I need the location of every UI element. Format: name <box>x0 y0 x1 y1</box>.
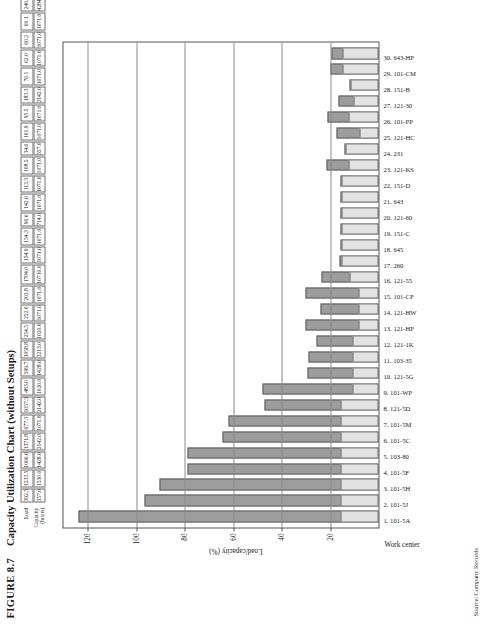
figure-caption: FIGURE 8.7Capacity Utilization Chart (wi… <box>4 349 15 618</box>
table-cell-capacity: 1071.0 <box>33 414 46 431</box>
x-axis-tick-label: 17. 260 <box>383 261 403 268</box>
x-axis-tick-label: 27. 121-30 <box>383 101 412 108</box>
x-axis-tick-label: 23. 121-KS <box>383 165 413 172</box>
x-axis-tick-label: 21. 643 <box>383 197 403 204</box>
x-axis-tick-label: 15. 101-CP <box>383 292 413 299</box>
x-axis-tick-label: 11. 103-35 <box>383 356 411 363</box>
bar <box>344 143 378 154</box>
table-cell-load: 1233.5 <box>20 469 33 486</box>
y-axis-tick-label: 100 <box>132 533 140 544</box>
bar <box>340 239 378 250</box>
bar-lower-segment <box>359 128 377 137</box>
table-cell-capacity: 2142.0 <box>33 396 46 413</box>
bar <box>339 255 378 266</box>
x-axis-tick-label: 26. 101-PP <box>383 117 412 124</box>
bar <box>307 367 378 378</box>
y-axis-tick-label: 40 <box>277 533 285 540</box>
y-axis-tick <box>87 527 88 531</box>
bar-lower-segment <box>341 192 377 201</box>
table-cell-load: 108.5 <box>20 156 33 173</box>
bar <box>340 175 378 186</box>
gridline <box>281 42 282 527</box>
bar <box>262 383 378 394</box>
bar-lower-segment <box>352 384 377 393</box>
x-axis-tick-label: 18. 645 <box>383 245 403 252</box>
table-cell-capacity: 1071.0 <box>33 304 46 321</box>
y-axis-tick <box>136 527 137 531</box>
x-axis-tick-label: 29. 101-CM <box>383 69 415 76</box>
bar <box>308 351 378 362</box>
table-cell-capacity: 1071.0 <box>33 227 46 244</box>
capacity-label-line2: (hours) <box>38 507 44 523</box>
table-cell-load: 113.3 <box>20 175 33 192</box>
x-axis-tick-label: 22. 151-D <box>383 181 410 188</box>
table-cell-load: 1058.8 <box>20 340 33 357</box>
table-cell-capacity: 2142.0 <box>33 86 46 103</box>
y-axis-tick-label: 80 <box>180 533 188 540</box>
table-cell-capacity: 1071.0 <box>33 193 46 210</box>
table-cell-load: 95.5 <box>20 104 33 121</box>
table-cell-capacity: 2142.0 <box>33 432 46 449</box>
bar <box>320 303 378 314</box>
bar <box>326 159 378 170</box>
table-cell-load: 599.7 <box>20 359 33 376</box>
x-axis-tick-label: 4. 101-5F <box>383 468 409 475</box>
table-cell-capacity: 1071.0 <box>33 246 46 263</box>
x-axis-tick-label: 19. 151-C <box>383 229 409 236</box>
table-cell-capacity: 1071.0 <box>33 67 46 84</box>
bar-lower-segment <box>358 288 377 297</box>
gridline <box>330 42 331 527</box>
capacity-utilization-chart: 1. 101-5A2. 101-5J3. 101-5H4. 101-5F5. 1… <box>62 41 379 528</box>
table-row-load: Load 392.51233.51066.61371.8677.31057.34… <box>20 0 33 527</box>
table-cell-load: 62.0 <box>20 49 33 66</box>
table-cell-load: 154.3 <box>20 227 33 244</box>
x-axis-tick-label: 10. 121-5G <box>383 372 413 379</box>
table-cell-capacity: 1071.0 <box>33 12 46 29</box>
bar-lower-segment <box>352 352 377 361</box>
table-cell-load: 183.3 <box>20 86 33 103</box>
table-cell-load: 60.2 <box>20 31 33 48</box>
bar <box>78 510 378 521</box>
bar-lower-segment <box>350 80 377 89</box>
bar-lower-segment <box>352 368 377 377</box>
bar-lower-segment <box>341 240 377 249</box>
y-axis-tick-label: 120 <box>83 533 91 544</box>
table-cell-load: 254.5 <box>20 322 33 339</box>
x-axis-tick-label: 5. 103-80 <box>383 452 408 459</box>
table-cell-load: 60.1 <box>20 12 33 29</box>
bar <box>330 63 378 74</box>
bar-lower-segment <box>340 416 377 425</box>
gridline <box>184 42 185 527</box>
bar-lower-segment <box>340 464 377 473</box>
bar-lower-segment <box>342 64 377 73</box>
table-cell-capacity: 1071.0 <box>33 175 46 192</box>
table-cell-load: 1704.0 <box>20 264 33 284</box>
y-axis-tick <box>281 527 282 531</box>
x-axis-tick-label: 8. 121-5D <box>383 404 410 411</box>
figure-sheet: FIGURE 8.7Capacity Utilization Chart (wi… <box>0 0 491 624</box>
bar <box>316 335 378 346</box>
table-cell-load: 76.1 <box>20 67 33 84</box>
bar-lower-segment <box>352 336 377 345</box>
source-note: Source: Company Records <box>471 547 478 616</box>
bar-lower-segment <box>341 224 377 233</box>
bar-lower-segment <box>340 480 377 489</box>
bar <box>340 191 378 202</box>
table-cell-capacity: 3213.0 <box>33 340 46 357</box>
plot-area: 1. 101-5A2. 101-5J3. 101-5H4. 101-5F5. 1… <box>62 41 379 528</box>
table-cell-capacity: 10710.0 <box>33 264 46 284</box>
table-cell-load: 1057.3 <box>20 396 33 413</box>
table-cell-capacity: 1071.0 <box>33 285 46 302</box>
bar-lower-segment <box>340 400 377 409</box>
bar-lower-segment <box>348 112 377 121</box>
table-cell-capacity: 1071.0 <box>33 31 46 48</box>
bar <box>349 79 378 90</box>
y-axis-title: Load/capacity (%) <box>209 546 262 554</box>
x-axis-tick-label: 25. 121-HC <box>383 133 414 140</box>
row-label-capacity: Capacity (hours) <box>33 503 46 527</box>
figure-number: FIGURE 8.7 <box>4 557 15 618</box>
x-axis-tick-label: 7. 101-5M <box>383 420 411 427</box>
bar-lower-segment <box>341 256 377 265</box>
y-axis-tick <box>184 527 185 531</box>
x-axis-tick-label: 24. 231 <box>383 149 403 156</box>
